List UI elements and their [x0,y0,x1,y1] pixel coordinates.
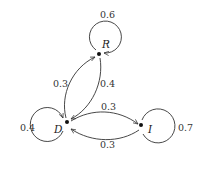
node-d-dot [65,120,69,124]
edge-label-i-d: 0.3 [100,139,115,150]
edge-i-to-d: 0.3 [71,129,139,150]
edge-label-d-i: 0.3 [101,101,116,112]
edge-label-d-d: 0.4 [20,122,35,133]
node-i-dot [139,123,143,127]
node-r-label: R [101,38,110,50]
node-r-dot [97,52,101,56]
edge-label-d-r: 0.3 [53,78,68,89]
markov-chain-diagram: 0.6 0.3 0.4 0.4 0.3 0.3 0.7 R D I [0,0,201,186]
node-i-label: I [147,123,153,135]
node-d: D [53,120,69,135]
edge-label-r-r: 0.6 [100,9,115,20]
edge-d-to-r: 0.3 [53,57,95,118]
node-i: I [139,123,153,135]
edge-label-i-i: 0.7 [178,122,193,133]
node-d-label: D [53,123,63,135]
edge-label-r-d: 0.4 [100,78,115,89]
